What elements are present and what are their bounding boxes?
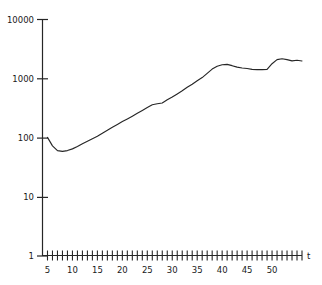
y-tick-label-10000: 10000 <box>7 15 34 25</box>
x-tick-label: 25 <box>142 265 153 275</box>
data-series-line <box>47 59 302 152</box>
x-axis-tick-labels: 5101520253035404550 <box>45 265 278 275</box>
x-tick-label: 45 <box>242 265 253 275</box>
x-tick-label: 35 <box>192 265 203 275</box>
x-tick-label: 10 <box>67 265 78 275</box>
x-tick-label: 5 <box>45 265 50 275</box>
line-chart-plot: 10000 1000 100 10 1 5101520253035404550 … <box>0 0 322 285</box>
y-tick-label-10: 10 <box>23 192 34 202</box>
x-tick-label: 50 <box>267 265 278 275</box>
x-tick-label: 20 <box>117 265 128 275</box>
y-tick-label-100: 100 <box>18 133 34 143</box>
y-tick-label-1: 1 <box>29 251 34 261</box>
x-tick-label: 30 <box>167 265 178 275</box>
x-tick-label: 40 <box>217 265 228 275</box>
chart-container: 10000 1000 100 10 1 5101520253035404550 … <box>0 0 322 285</box>
x-axis-label: t <box>307 251 311 261</box>
x-tick-label: 15 <box>92 265 103 275</box>
y-tick-label-1000: 1000 <box>12 74 34 84</box>
